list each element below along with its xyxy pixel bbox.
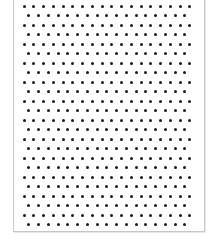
grid-dot [81, 5, 84, 8]
grid-dot [188, 157, 191, 160]
grid-dot [23, 5, 26, 8]
grid-dot [52, 195, 55, 198]
grid-dot [42, 195, 45, 198]
grid-dot [140, 24, 143, 27]
grid-dot [120, 119, 123, 122]
grid-dot [96, 185, 99, 188]
grid-dot [174, 147, 177, 150]
grid-dot [149, 24, 152, 27]
grid-dot [32, 62, 35, 65]
grid-dot [149, 5, 152, 8]
grid-dot [130, 119, 133, 122]
grid-dot [159, 62, 162, 65]
grid-dot [188, 5, 191, 8]
grid-dot [23, 81, 26, 84]
grid-dot [52, 100, 55, 103]
grid-dot [96, 204, 99, 207]
grid-dot [188, 100, 191, 103]
grid-dot [23, 24, 26, 27]
grid-dot [130, 5, 133, 8]
grid-dot [135, 204, 138, 207]
grid-dot [174, 52, 177, 55]
grid-dot [32, 138, 35, 141]
grid-dot [71, 157, 74, 160]
grid-dot [174, 33, 177, 36]
grid-dot [91, 24, 94, 27]
grid-dot [149, 62, 152, 65]
grid-dot [32, 81, 35, 84]
grid-dot [140, 81, 143, 84]
grid-dot [179, 119, 182, 122]
grid-dot [110, 176, 113, 179]
grid-dot [101, 138, 104, 141]
grid-dot [91, 176, 94, 179]
grid-dot [42, 5, 45, 8]
grid-dot [96, 14, 99, 17]
grid-dot [130, 81, 133, 84]
grid-dot [62, 138, 65, 141]
grid-dot [179, 176, 182, 179]
grid-dot [125, 109, 128, 112]
grid-dot [96, 223, 99, 226]
grid-dot [71, 24, 74, 27]
grid-dot [110, 214, 113, 217]
grid-dot [140, 214, 143, 217]
grid-dot [159, 100, 162, 103]
grid-dot [71, 119, 74, 122]
grid-dot [23, 195, 26, 198]
grid-dot [149, 195, 152, 198]
grid-dot [32, 214, 35, 217]
grid-dot [149, 100, 152, 103]
grid-dot [188, 81, 191, 84]
grid-dot [164, 14, 167, 17]
grid-dot [140, 138, 143, 141]
grid-dot [188, 214, 191, 217]
grid-dot [135, 109, 138, 112]
grid-dot [62, 24, 65, 27]
grid-dot [169, 100, 172, 103]
grid-dot [135, 128, 138, 131]
grid-dot [47, 109, 50, 112]
grid-dot [120, 24, 123, 27]
grid-dot [91, 100, 94, 103]
grid-dot [96, 109, 99, 112]
grid-dot [47, 185, 50, 188]
grid-dot [174, 71, 177, 74]
grid-dot [71, 43, 74, 46]
grid-dot [159, 24, 162, 27]
grid-dot [96, 128, 99, 131]
grid-dot [164, 90, 167, 93]
grid-dot [47, 14, 50, 17]
grid-dot [47, 90, 50, 93]
grid-dot [81, 195, 84, 198]
grid-dot [120, 195, 123, 198]
grid-dot [164, 128, 167, 131]
grid-dot [179, 62, 182, 65]
grid-dot [125, 52, 128, 55]
grid-dot [81, 214, 84, 217]
grid-dot [179, 214, 182, 217]
grid-dot [96, 71, 99, 74]
grid-dot [140, 157, 143, 160]
grid-dot [81, 43, 84, 46]
grid-dot [81, 138, 84, 141]
grid-dot [169, 176, 172, 179]
grid-dot [32, 157, 35, 160]
grid-dot [120, 43, 123, 46]
grid-dot [42, 119, 45, 122]
grid-dot [42, 138, 45, 141]
grid-dot [179, 43, 182, 46]
grid-dot [130, 43, 133, 46]
grid-dot [42, 100, 45, 103]
grid-dot [120, 176, 123, 179]
grid-dot [169, 195, 172, 198]
grid-dot [32, 5, 35, 8]
grid-dot [179, 100, 182, 103]
grid-dot [174, 14, 177, 17]
grid-dot [125, 71, 128, 74]
grid-dot [110, 81, 113, 84]
grid-dot [57, 166, 60, 169]
grid-dot [47, 52, 50, 55]
grid-dot [47, 204, 50, 207]
grid-dot [135, 223, 138, 226]
